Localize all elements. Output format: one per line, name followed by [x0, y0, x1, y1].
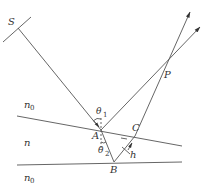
svg-text:0: 0: [30, 177, 34, 185]
svg-text:0: 0: [30, 104, 34, 112]
theta1-arc: [93, 118, 101, 121]
svg-text:1: 1: [103, 111, 107, 119]
svg-text:θ: θ: [98, 145, 104, 155]
theta2-arc: [101, 142, 106, 143]
svg-text:θ: θ: [96, 106, 102, 116]
top-interface: [17, 116, 182, 146]
incident-ray: [18, 28, 101, 130]
perpendicular-tick: [121, 138, 127, 139]
svg-text:2: 2: [105, 150, 109, 158]
label-theta1: θ 1: [96, 106, 107, 119]
label-c: C: [132, 122, 140, 133]
svg-text:n: n: [24, 137, 30, 148]
label-medium-film: n: [24, 137, 30, 148]
reflected-ray-a: [101, 27, 200, 130]
label-h: h: [130, 149, 136, 160]
label-medium-top: n 0: [24, 99, 34, 112]
emergent-ray-c: [135, 12, 190, 136]
thin-film-diagram: S P A B C h θ 1 θ 2 n 0 n n 0: [0, 0, 213, 194]
bottom-interface: [17, 162, 182, 165]
label-source: S: [8, 16, 15, 27]
label-a: A: [91, 130, 99, 141]
incident-direction-arrow: [94, 121, 99, 127]
label-medium-bottom: n 0: [24, 172, 34, 185]
label-b: B: [109, 164, 117, 175]
label-p: P: [163, 69, 171, 80]
